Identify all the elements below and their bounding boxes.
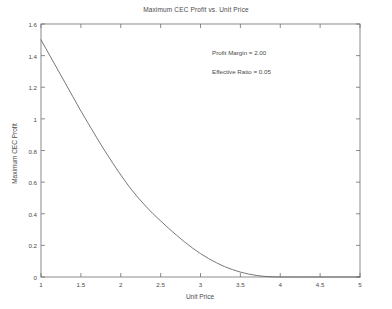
x-tick-label: 3 [199, 281, 202, 288]
x-tick-label: 5 [358, 281, 361, 288]
profit-curve [41, 40, 360, 277]
y-tick-label: 0 [15, 274, 37, 281]
x-tick-label: 2 [119, 281, 122, 288]
annotation-effective-ratio: Effective Ratio = 0.05 [212, 68, 271, 75]
y-tick-label: 0.6 [15, 179, 37, 186]
y-tick-label: 0.4 [15, 210, 37, 217]
plot-axes [0, 0, 392, 309]
x-tick-label: 4.5 [316, 281, 325, 288]
x-tick-label: 1 [39, 281, 42, 288]
y-tick-label: 1.4 [15, 52, 37, 59]
annotation-profit-margin: Profit Margin = 2.00 [212, 49, 266, 56]
x-tick-label: 3.5 [236, 281, 245, 288]
x-tick-label: 1.5 [77, 281, 86, 288]
y-tick-label: 1.2 [15, 84, 37, 91]
tick-marks [41, 24, 360, 277]
y-axis-label: Maximum CEC Profit [11, 104, 18, 204]
y-tick-label: 1.6 [15, 21, 37, 28]
x-axis-label: Unit Price [186, 293, 214, 300]
x-tick-label: 4 [279, 281, 282, 288]
y-tick-label: 0.8 [15, 147, 37, 154]
figure-canvas: Maximum CEC Profit vs. Unit Price 11.522… [0, 0, 392, 309]
y-tick-label: 1 [15, 115, 37, 122]
y-tick-label: 0.2 [15, 242, 37, 249]
plot-box [41, 24, 360, 277]
x-tick-label: 2.5 [156, 281, 165, 288]
